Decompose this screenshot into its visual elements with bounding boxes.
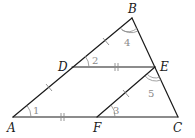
angle-label-3: 3 xyxy=(113,105,119,116)
vertex-label-f: F xyxy=(92,121,102,135)
vertex-label-a: A xyxy=(6,121,16,135)
angle-label-2: 2 xyxy=(92,55,98,66)
segment-fe xyxy=(97,67,155,117)
angle-2-arc xyxy=(85,56,89,67)
angle-1-arc xyxy=(27,106,31,118)
vertex-label-c: C xyxy=(173,121,182,135)
angle-4-arc-inner xyxy=(122,28,137,32)
angle-label-4: 4 xyxy=(124,37,130,48)
angle-label-1: 1 xyxy=(33,105,39,116)
angle-label-5: 5 xyxy=(148,88,154,99)
vertex-label-e: E xyxy=(159,60,169,74)
geometry-diagram: B D E A F C 1 2 3 4 5 xyxy=(0,0,195,138)
vertex-label-d: D xyxy=(57,60,68,74)
angle-5-arc-outer xyxy=(145,76,161,81)
vertex-label-b: B xyxy=(127,2,137,16)
